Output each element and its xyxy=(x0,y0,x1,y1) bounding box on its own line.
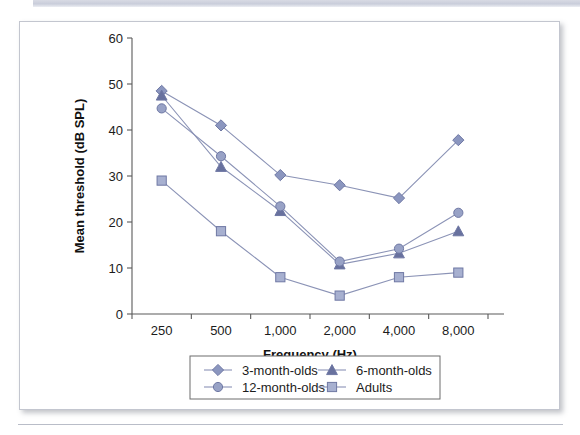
data-point-3-month-olds xyxy=(334,180,345,191)
legend-label-adults: Adults xyxy=(356,380,393,395)
y-tick-label: 0 xyxy=(116,307,123,322)
y-tick-label: 10 xyxy=(109,261,123,276)
legend-label-6-month-olds: 6-month-olds xyxy=(356,363,432,378)
x-tick-label: 8,000 xyxy=(442,323,475,338)
data-point-12-month-olds xyxy=(454,208,463,217)
legend-label-3-month-olds: 3-month-olds xyxy=(242,363,318,378)
data-point-12-month-olds xyxy=(216,152,225,161)
page-bottom-rule xyxy=(18,424,563,425)
data-point-adults xyxy=(216,227,225,236)
data-point-adults xyxy=(454,268,463,277)
x-tick-label: 1,000 xyxy=(264,323,297,338)
line-chart: 01020304050602505001,0002,0004,0008,000F… xyxy=(20,22,559,409)
data-point-6-month-olds xyxy=(453,226,464,236)
scan-top-band xyxy=(33,0,580,7)
y-tick-label: 40 xyxy=(109,123,123,138)
x-tick-label: 4,000 xyxy=(383,323,416,338)
y-tick-label: 50 xyxy=(109,77,123,92)
legend-marker-adults xyxy=(327,382,336,391)
data-point-12-month-olds xyxy=(394,244,403,253)
data-point-adults xyxy=(157,176,166,185)
y-tick-label: 60 xyxy=(109,31,123,46)
data-point-12-month-olds xyxy=(157,104,166,113)
data-point-adults xyxy=(276,273,285,282)
y-tick-label: 20 xyxy=(109,215,123,230)
legend-marker-12-month-olds xyxy=(213,382,222,391)
legend-label-12-month-olds: 12-month-olds xyxy=(242,380,326,395)
data-point-adults xyxy=(335,291,344,300)
series-line-12-month-olds xyxy=(162,108,459,261)
x-tick-label: 500 xyxy=(210,323,232,338)
x-tick-label: 2,000 xyxy=(323,323,356,338)
data-point-12-month-olds xyxy=(276,202,285,211)
page-canvas: 01020304050602505001,0002,0004,0008,000F… xyxy=(0,0,580,435)
data-point-12-month-olds xyxy=(335,257,344,266)
figure-container: 01020304050602505001,0002,0004,0008,000F… xyxy=(19,21,560,410)
data-point-adults xyxy=(394,273,403,282)
y-tick-label: 30 xyxy=(109,169,123,184)
x-tick-label: 250 xyxy=(151,323,173,338)
y-axis-title: Mean threshold (dB SPL) xyxy=(72,99,87,254)
plot-area: 01020304050602505001,0002,0004,0008,000F… xyxy=(20,22,559,409)
